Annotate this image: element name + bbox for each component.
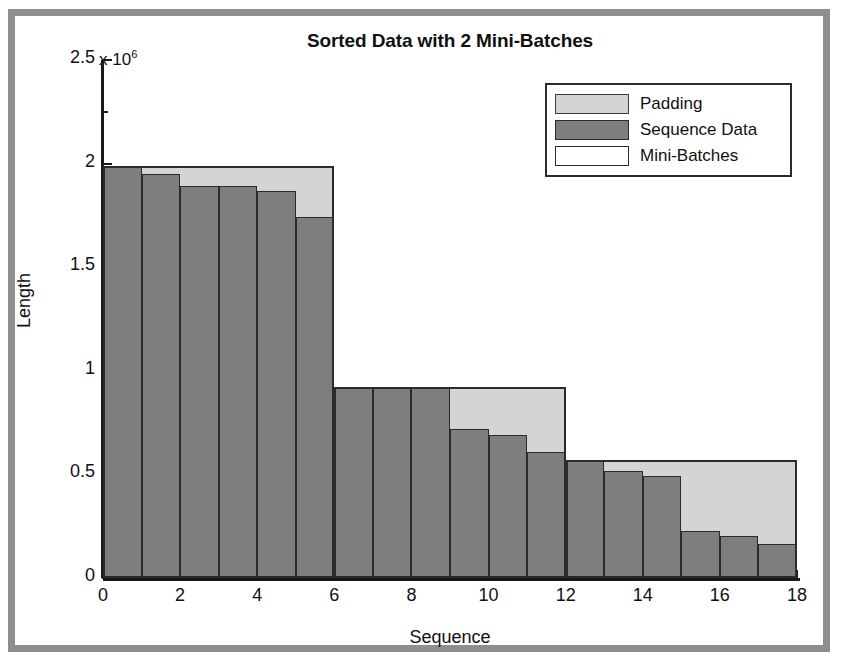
x-tick-label: 18 bbox=[777, 585, 817, 606]
sequence-data-bar bbox=[527, 452, 566, 578]
y-tick-label-wrap: 2.5 bbox=[0, 47, 843, 48]
y-tick-label: 0 bbox=[85, 565, 95, 586]
sequence-data-bar bbox=[257, 191, 296, 578]
y-tick-label: 0.5 bbox=[70, 461, 95, 482]
y-tick-label: 1 bbox=[85, 358, 95, 379]
chart-title: Sorted Data with 2 Mini-Batches bbox=[103, 30, 797, 52]
sequence-data-bar bbox=[411, 387, 450, 578]
sequence-data-bar bbox=[758, 544, 797, 578]
x-tick-label: 14 bbox=[623, 585, 663, 606]
y-tick-label: 1.5 bbox=[70, 254, 95, 275]
x-tick-label: 12 bbox=[546, 585, 586, 606]
x-axis-label: Sequence bbox=[103, 627, 797, 648]
sequence-data-bar bbox=[450, 429, 489, 578]
legend-item-sequence-data: Sequence Data bbox=[555, 117, 782, 143]
x-tick-label: 2 bbox=[160, 585, 200, 606]
legend-label-mini-batches: Mini-Batches bbox=[640, 146, 738, 166]
x-tick-label: 10 bbox=[469, 585, 509, 606]
sequence-data-bar bbox=[296, 217, 335, 578]
legend-item-padding: Padding bbox=[555, 91, 782, 117]
sequence-data-bar bbox=[180, 186, 219, 578]
sequence-data-bar bbox=[103, 166, 142, 578]
legend-swatch-padding bbox=[555, 94, 629, 114]
sequence-data-bar bbox=[643, 476, 682, 578]
y-tick-label: 2.5 bbox=[70, 47, 95, 68]
legend-item-mini-batches: Mini-Batches bbox=[555, 143, 782, 169]
x-tick-label: 16 bbox=[700, 585, 740, 606]
sequence-data-bar bbox=[681, 531, 720, 578]
sequence-data-bar bbox=[566, 460, 605, 578]
sequence-data-bar bbox=[219, 186, 258, 578]
x-tick-label: 0 bbox=[83, 585, 123, 606]
sequence-data-bar bbox=[489, 435, 528, 578]
y-tick-mark bbox=[103, 59, 112, 61]
y-tick-mark bbox=[103, 163, 112, 165]
sequence-data-bar bbox=[142, 174, 181, 578]
y-exponent-power: 6 bbox=[131, 48, 137, 60]
sequence-data-bar bbox=[334, 387, 373, 578]
x-axis-line bbox=[103, 578, 800, 581]
legend: Padding Sequence Data Mini-Batches bbox=[545, 83, 792, 177]
legend-label-padding: Padding bbox=[640, 94, 702, 114]
x-tick-label: 8 bbox=[391, 585, 431, 606]
y-tick-mark-minor bbox=[103, 111, 108, 113]
y-tick-label: 2 bbox=[85, 151, 95, 172]
x-tick-label: 6 bbox=[314, 585, 354, 606]
y-axis-label: Length bbox=[14, 273, 35, 328]
legend-swatch-mini-batches bbox=[555, 146, 629, 166]
legend-swatch-sequence-data bbox=[555, 120, 629, 140]
x-tick-label: 4 bbox=[237, 585, 277, 606]
sequence-data-bar bbox=[604, 471, 643, 578]
figure-root: Sorted Data with 2 Mini-Batches x 106 Le… bbox=[0, 0, 843, 667]
legend-label-sequence-data: Sequence Data bbox=[640, 120, 757, 140]
sequence-data-bar bbox=[720, 536, 759, 578]
sequence-data-bar bbox=[373, 387, 412, 578]
